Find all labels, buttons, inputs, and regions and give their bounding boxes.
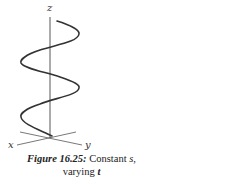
figure-helix: z x y [0, 0, 227, 150]
helix-diagram [0, 0, 227, 150]
y-axis-line [20, 132, 82, 145]
caption-text-2: varying [63, 166, 98, 177]
z-axis-label: z [47, 3, 52, 13]
caption-line-2: varying t [0, 165, 163, 178]
x-axis-label: x [8, 140, 14, 150]
figure-caption: Figure 16.25: Constant s, varying t [0, 152, 163, 178]
y-axis-label: y [85, 140, 91, 150]
caption-label: Figure 16.25: [27, 153, 87, 164]
caption-var-t: t [97, 166, 100, 177]
caption-text: Constant [87, 153, 130, 164]
caption-line-1: Figure 16.25: Constant s, [0, 152, 163, 165]
caption-comma: , [133, 153, 136, 164]
